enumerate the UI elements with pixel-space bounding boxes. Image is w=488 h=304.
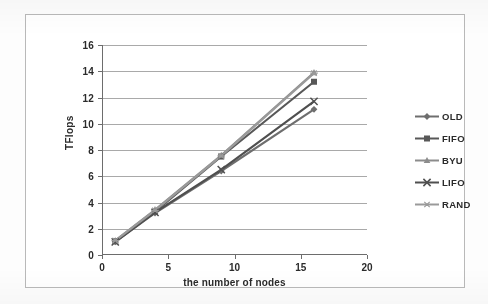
x-tick-label: 20 [361, 262, 372, 273]
y-tick-label: 4 [88, 197, 94, 208]
x-tick [235, 255, 236, 259]
diamond-marker-icon [414, 111, 440, 122]
x-tick [168, 255, 169, 259]
legend-label: BYU [442, 155, 463, 166]
data-point-byu [311, 69, 318, 75]
series-plot [102, 45, 367, 255]
y-tick-label: 0 [88, 250, 94, 261]
legend-label: FIFO [442, 133, 465, 144]
y-tick-label: 16 [82, 40, 94, 51]
x-tick [367, 255, 368, 259]
y-tick-label: 12 [82, 92, 94, 103]
legend-item-fifo[interactable]: FIFO [414, 133, 471, 144]
legend-label: OLD [442, 111, 463, 122]
x-tick [301, 255, 302, 259]
y-axis-title: TFlops [64, 115, 75, 150]
chart-legend: OLD FIFO BYU LIFO RAND [414, 111, 471, 210]
triangle-marker-icon [414, 155, 440, 166]
y-tick-label: 8 [88, 145, 94, 156]
y-tick-label: 2 [88, 223, 94, 234]
legend-item-rand[interactable]: RAND [414, 199, 471, 210]
legend-item-lifo[interactable]: LIFO [414, 177, 471, 188]
x-tick-label: 0 [99, 262, 105, 273]
asterisk-marker-icon [414, 199, 440, 210]
y-tick-label: 14 [82, 66, 94, 77]
cross-marker-icon [414, 177, 440, 188]
x-tick-label: 5 [165, 262, 171, 273]
chart-frame: TFlops 0246810121416 05101520 the number… [25, 14, 465, 288]
series-line-old [115, 109, 314, 242]
series-line-byu [115, 73, 314, 241]
x-tick-label: 15 [295, 262, 306, 273]
series-line-lifo [115, 101, 314, 241]
square-marker-icon [414, 133, 440, 144]
data-point-lifo [310, 98, 317, 105]
legend-label: LIFO [442, 177, 465, 188]
legend-item-byu[interactable]: BYU [414, 155, 471, 166]
data-point-fifo [311, 79, 317, 85]
figure-canvas: TFlops 0246810121416 05101520 the number… [0, 0, 488, 304]
legend-label: RAND [442, 199, 471, 210]
y-tick-label: 10 [82, 118, 94, 129]
x-tick-label: 10 [229, 262, 240, 273]
x-tick [102, 255, 103, 259]
x-axis-title: the number of nodes [102, 277, 367, 288]
plot-area: 0246810121416 05101520 [102, 45, 367, 255]
legend-item-old[interactable]: OLD [414, 111, 471, 122]
y-tick-label: 6 [88, 171, 94, 182]
